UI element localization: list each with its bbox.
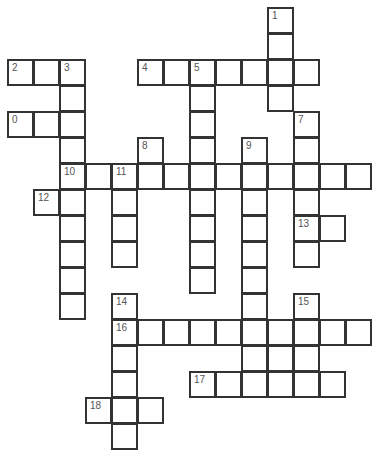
crossword-cell[interactable] bbox=[59, 293, 86, 320]
crossword-cell[interactable] bbox=[319, 319, 346, 346]
crossword-cell[interactable] bbox=[59, 85, 86, 112]
crossword-cell[interactable] bbox=[215, 319, 242, 346]
crossword-cell[interactable] bbox=[241, 59, 268, 86]
crossword-cell[interactable] bbox=[111, 189, 138, 216]
crossword-cell[interactable] bbox=[267, 345, 294, 372]
crossword-cell[interactable] bbox=[293, 59, 320, 86]
crossword-cell[interactable] bbox=[33, 59, 60, 86]
crossword-cell[interactable] bbox=[59, 267, 86, 294]
crossword-cell[interactable] bbox=[59, 111, 86, 138]
crossword-cell[interactable] bbox=[267, 85, 294, 112]
crossword-cell[interactable] bbox=[241, 163, 268, 190]
crossword-cell[interactable]: 0 bbox=[7, 111, 34, 138]
clue-number: 17 bbox=[194, 375, 205, 385]
crossword-cell[interactable] bbox=[267, 33, 294, 60]
crossword-cell[interactable]: 11 bbox=[111, 163, 138, 190]
crossword-cell[interactable] bbox=[111, 423, 138, 450]
crossword-cell[interactable] bbox=[59, 241, 86, 268]
crossword-cell[interactable] bbox=[241, 267, 268, 294]
crossword-cell[interactable] bbox=[267, 163, 294, 190]
clue-number: 5 bbox=[194, 63, 200, 73]
crossword-cell[interactable] bbox=[137, 163, 164, 190]
crossword-grid: 123450789101112131415161718 bbox=[0, 0, 383, 456]
crossword-cell[interactable] bbox=[111, 241, 138, 268]
crossword-cell[interactable] bbox=[189, 111, 216, 138]
crossword-cell[interactable] bbox=[293, 163, 320, 190]
crossword-cell[interactable] bbox=[293, 345, 320, 372]
crossword-cell[interactable]: 4 bbox=[137, 59, 164, 86]
crossword-cell[interactable] bbox=[319, 371, 346, 398]
crossword-cell[interactable] bbox=[215, 371, 242, 398]
crossword-cell[interactable] bbox=[215, 59, 242, 86]
crossword-cell[interactable]: 15 bbox=[293, 293, 320, 320]
crossword-cell[interactable]: 14 bbox=[111, 293, 138, 320]
clue-number: 0 bbox=[12, 115, 18, 125]
clue-number: 11 bbox=[116, 167, 126, 177]
crossword-cell[interactable] bbox=[241, 293, 268, 320]
crossword-cell[interactable] bbox=[111, 397, 138, 424]
crossword-cell[interactable] bbox=[345, 319, 372, 346]
clue-number: 13 bbox=[298, 219, 309, 229]
crossword-cell[interactable]: 16 bbox=[111, 319, 138, 346]
crossword-cell[interactable]: 13 bbox=[293, 215, 320, 242]
crossword-cell[interactable] bbox=[293, 137, 320, 164]
crossword-cell[interactable] bbox=[241, 345, 268, 372]
crossword-cell[interactable]: 10 bbox=[59, 163, 86, 190]
clue-number: 14 bbox=[116, 297, 127, 307]
crossword-cell[interactable] bbox=[189, 319, 216, 346]
crossword-cell[interactable] bbox=[111, 345, 138, 372]
crossword-cell[interactable]: 3 bbox=[59, 59, 86, 86]
crossword-cell[interactable]: 1 bbox=[267, 7, 294, 34]
clue-number: 4 bbox=[142, 63, 148, 73]
crossword-cell[interactable]: 2 bbox=[7, 59, 34, 86]
crossword-cell[interactable] bbox=[241, 371, 268, 398]
crossword-cell[interactable] bbox=[85, 163, 112, 190]
clue-number: 18 bbox=[90, 401, 101, 411]
crossword-cell[interactable] bbox=[137, 319, 164, 346]
clue-number: 10 bbox=[64, 167, 75, 177]
crossword-cell[interactable] bbox=[267, 59, 294, 86]
crossword-cell[interactable] bbox=[163, 319, 190, 346]
crossword-cell[interactable] bbox=[189, 241, 216, 268]
crossword-cell[interactable] bbox=[241, 215, 268, 242]
crossword-cell[interactable] bbox=[189, 215, 216, 242]
crossword-cell[interactable] bbox=[137, 397, 164, 424]
crossword-cell[interactable]: 9 bbox=[241, 137, 268, 164]
crossword-cell[interactable] bbox=[241, 319, 268, 346]
crossword-cell[interactable] bbox=[319, 215, 346, 242]
crossword-cell[interactable]: 8 bbox=[137, 137, 164, 164]
crossword-cell[interactable] bbox=[241, 189, 268, 216]
crossword-cell[interactable] bbox=[189, 137, 216, 164]
crossword-cell[interactable] bbox=[189, 189, 216, 216]
crossword-cell[interactable] bbox=[59, 215, 86, 242]
crossword-cell[interactable]: 7 bbox=[293, 111, 320, 138]
crossword-cell[interactable] bbox=[59, 189, 86, 216]
clue-number: 12 bbox=[38, 193, 49, 203]
crossword-cell[interactable]: 17 bbox=[189, 371, 216, 398]
crossword-cell[interactable] bbox=[189, 85, 216, 112]
clue-number: 15 bbox=[298, 297, 309, 307]
crossword-cell[interactable] bbox=[163, 59, 190, 86]
crossword-cell[interactable] bbox=[33, 111, 60, 138]
crossword-cell[interactable] bbox=[293, 189, 320, 216]
crossword-cell[interactable] bbox=[293, 319, 320, 346]
crossword-cell[interactable] bbox=[241, 241, 268, 268]
crossword-cell[interactable] bbox=[267, 319, 294, 346]
crossword-cell[interactable] bbox=[345, 163, 372, 190]
crossword-cell[interactable] bbox=[215, 163, 242, 190]
crossword-cell[interactable] bbox=[163, 163, 190, 190]
clue-number: 9 bbox=[246, 141, 252, 151]
crossword-cell[interactable]: 5 bbox=[189, 59, 216, 86]
crossword-cell[interactable] bbox=[59, 137, 86, 164]
clue-number: 8 bbox=[142, 141, 148, 151]
crossword-cell[interactable] bbox=[319, 163, 346, 190]
crossword-cell[interactable] bbox=[111, 215, 138, 242]
crossword-cell[interactable] bbox=[189, 267, 216, 294]
crossword-cell[interactable]: 12 bbox=[33, 189, 60, 216]
crossword-cell[interactable] bbox=[189, 163, 216, 190]
crossword-cell[interactable] bbox=[293, 371, 320, 398]
crossword-cell[interactable] bbox=[293, 241, 320, 268]
crossword-cell[interactable]: 18 bbox=[85, 397, 112, 424]
crossword-cell[interactable] bbox=[267, 371, 294, 398]
crossword-cell[interactable] bbox=[111, 371, 138, 398]
